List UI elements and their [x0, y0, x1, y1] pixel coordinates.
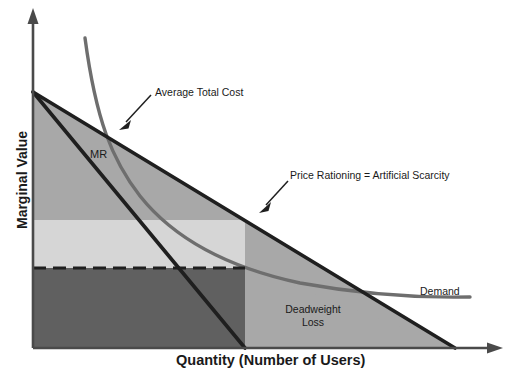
marginal-revenue-label: MR — [90, 148, 107, 160]
price-rationing-label: Price Rationing = Artificial Scarcity — [290, 169, 450, 181]
demand-label: Demand — [420, 285, 460, 297]
atc-callout-arrow — [119, 95, 151, 130]
monopoly-diagram: Marginal Value Quantity (Number of Users… — [0, 0, 511, 382]
region-price-rationing-band — [33, 220, 245, 268]
x-axis-arrowhead — [487, 343, 503, 354]
average-total-cost-label: Average Total Cost — [155, 86, 243, 98]
deadweight-loss-label: Deadweight Loss — [278, 303, 348, 329]
price-rationing-callout-arrow — [259, 181, 288, 213]
y-axis-title: Marginal Value — [14, 120, 30, 240]
x-axis-title: Quantity (Number of Users) — [176, 352, 365, 368]
chart-canvas — [0, 0, 511, 382]
y-axis-arrowhead — [28, 8, 39, 24]
